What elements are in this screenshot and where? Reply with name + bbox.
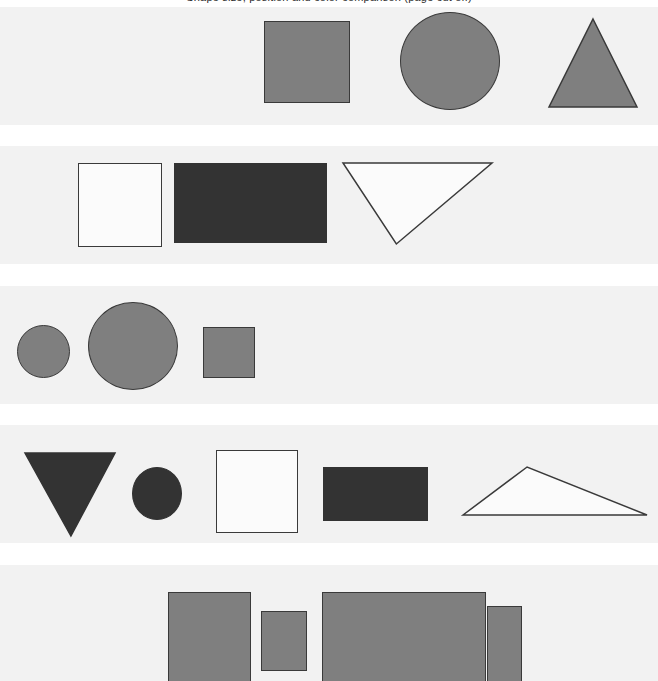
row-4-shape-4-triangle-obtuse bbox=[462, 466, 648, 516]
row-2-shape-2-triangle-down bbox=[342, 162, 493, 245]
row-4-shape-2-square bbox=[216, 450, 298, 533]
row-2-shape-0-square bbox=[78, 163, 162, 247]
row-2-shape-1-rectangle bbox=[174, 163, 327, 243]
row-4-shape-0-triangle-down bbox=[24, 452, 116, 537]
row-3-shape-2-square bbox=[203, 327, 255, 378]
row-5-shape-2-rectangle bbox=[322, 592, 486, 681]
row-5-shape-3-rectangle bbox=[487, 606, 522, 681]
row-3-shape-0-circle bbox=[17, 325, 70, 378]
row-5-shape-0-rectangle bbox=[168, 592, 251, 681]
row-4-shape-1-circle bbox=[132, 467, 182, 520]
row-3-shape-1-circle bbox=[88, 302, 178, 390]
row-5-shape-1-rectangle bbox=[261, 611, 307, 671]
row-1-shape-2-triangle-up bbox=[548, 18, 638, 108]
row-4-shape-4-triangle-obtuse-path bbox=[463, 467, 647, 515]
row-4-shape-0-triangle-down-path bbox=[25, 453, 115, 536]
figure-canvas: Shape size, position and color compariso… bbox=[0, 0, 658, 681]
row-2-shape-2-triangle-down-path bbox=[343, 163, 492, 244]
row-4-shape-3-rectangle bbox=[323, 467, 428, 521]
page-title-clipped: Shape size, position and color compariso… bbox=[0, 0, 658, 5]
row-1-shape-0-square bbox=[264, 21, 350, 103]
row-1-shape-1-circle bbox=[400, 12, 500, 110]
row-1-shape-2-triangle-up-path bbox=[549, 19, 637, 107]
